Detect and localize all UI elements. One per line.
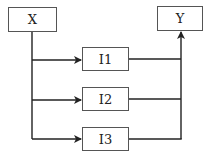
node-x-label: X [28, 12, 37, 27]
node-i1: I1 [82, 47, 129, 71]
node-i2-label: I2 [99, 92, 112, 107]
node-i3: I3 [82, 127, 129, 151]
node-i2: I2 [82, 87, 129, 111]
node-y: Y [157, 6, 203, 31]
node-y-label: Y [176, 11, 185, 26]
node-i3-label: I3 [99, 132, 112, 147]
node-x: X [8, 7, 57, 32]
node-i1-label: I1 [99, 52, 112, 67]
